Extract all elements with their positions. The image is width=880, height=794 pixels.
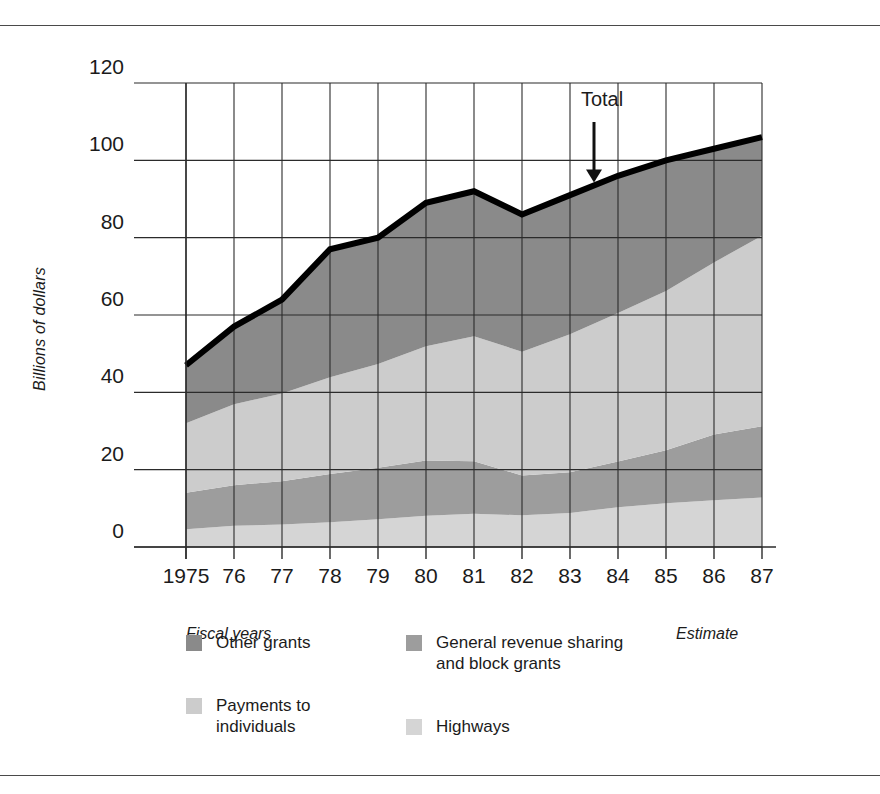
total-annotation: Total <box>581 88 623 182</box>
legend-column-left: Other grants Payments to individuals <box>186 632 311 779</box>
legend-swatch-highways <box>406 719 422 735</box>
legend-label: General revenue sharing and block grants <box>436 632 623 674</box>
legend-column-right: General revenue sharing and block grants… <box>406 632 623 779</box>
x-tick-label: 76 <box>222 564 245 587</box>
plot-area: Billions of dollars 02040608010012019757… <box>0 30 880 590</box>
y-tick-label: 0 <box>112 519 124 542</box>
figure-container: Billions of dollars 02040608010012019757… <box>0 0 880 794</box>
y-tick-label: 20 <box>101 442 124 465</box>
x-tick-label: 84 <box>606 564 630 587</box>
legend-label: Other grants <box>216 632 311 653</box>
legend-swatch-payments-to-individuals <box>186 698 202 714</box>
x-tick-label: 85 <box>654 564 677 587</box>
legend-item: Highways <box>406 716 623 737</box>
x-tick-label: 80 <box>414 564 437 587</box>
legend-item: General revenue sharing and block grants <box>406 632 623 674</box>
top-horizontal-rule <box>0 25 880 26</box>
x-tick-label: 79 <box>366 564 389 587</box>
y-tick-label: 120 <box>89 55 124 78</box>
x-tick-label: 78 <box>318 564 341 587</box>
legend-label: Payments to individuals <box>216 695 311 737</box>
x-tick-label: 83 <box>558 564 581 587</box>
y-tick-label: 100 <box>89 132 124 155</box>
legend-label: Highways <box>436 716 510 737</box>
chart-legend: Other grants Payments to individuals Gen… <box>0 632 880 752</box>
x-tick-label: 77 <box>270 564 293 587</box>
x-tick-label: 81 <box>462 564 485 587</box>
x-tick-label: 82 <box>510 564 533 587</box>
total-annotation-label: Total <box>581 88 623 110</box>
y-tick-label: 60 <box>101 287 124 310</box>
x-tick-label: 87 <box>750 564 773 587</box>
y-tick-label: 40 <box>101 364 124 387</box>
stacked-area-chart: 0204060801001201975767778798081828384858… <box>0 30 880 590</box>
legend-item: Other grants <box>186 632 311 653</box>
x-tick-label: 1975 <box>163 564 210 587</box>
y-tick-label: 80 <box>101 210 124 233</box>
legend-swatch-other-grants <box>186 635 202 651</box>
legend-swatch-general-revenue-sharing <box>406 635 422 651</box>
legend-item: Payments to individuals <box>186 695 311 737</box>
x-tick-label: 86 <box>702 564 725 587</box>
